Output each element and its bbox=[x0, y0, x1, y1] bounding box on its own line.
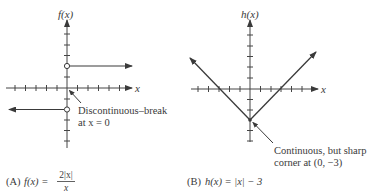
annotation-line1: Continuous, but sharp bbox=[274, 145, 366, 156]
caption-prefix: (B) bbox=[187, 176, 202, 188]
caption-function: f(x) = bbox=[24, 176, 48, 188]
corner-point bbox=[248, 118, 252, 122]
annotation-pointer-b bbox=[253, 123, 273, 144]
x-axis-label: x bbox=[134, 82, 140, 94]
y-axis-label: f(x) bbox=[58, 8, 74, 21]
annotation-line2: corner at (0, −3) bbox=[274, 157, 343, 169]
open-point-upper bbox=[64, 63, 69, 68]
h-right-branch bbox=[250, 52, 316, 120]
panel-a-graph: f(x) x Discontinuous–break at x = 0 (A) … bbox=[6, 8, 168, 193]
y-axis-label: h(x) bbox=[241, 8, 259, 21]
annotation-line2: at x = 0 bbox=[78, 117, 110, 128]
open-point-lower bbox=[64, 107, 69, 112]
caption-prefix: (A) bbox=[6, 176, 21, 188]
annotation-pointer-a bbox=[70, 91, 82, 104]
figure: f(x) x Discontinuous–break at x = 0 (A) … bbox=[0, 0, 372, 193]
caption-function: h(x) = |x| − 3 bbox=[205, 176, 262, 188]
x-axis-label: x bbox=[320, 83, 326, 95]
caption-denominator: x bbox=[63, 183, 69, 193]
caption-numerator: 2|x| bbox=[59, 170, 72, 180]
panel-b-graph: h(x) x Continuous, but sharp corner at (… bbox=[187, 8, 366, 188]
annotation-line1: Discontinuous–break bbox=[78, 105, 168, 116]
